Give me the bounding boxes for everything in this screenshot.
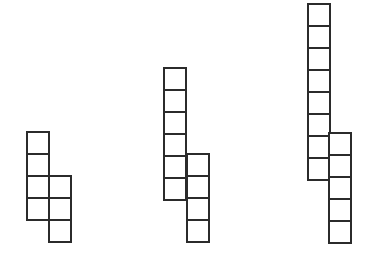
square-tile [186, 219, 210, 243]
square-tile [328, 198, 352, 222]
square-tile [307, 69, 331, 93]
square-tile [328, 154, 352, 178]
square-tile [26, 153, 50, 177]
square-tile [48, 197, 72, 221]
square-tile [48, 175, 72, 199]
square-tile [163, 89, 187, 113]
square-tile [163, 177, 187, 201]
square-tile [328, 132, 352, 156]
square-tile [26, 131, 50, 155]
square-tile [307, 25, 331, 49]
square-tile [186, 153, 210, 177]
square-tile [186, 175, 210, 199]
square-tile [26, 197, 50, 221]
square-tile [163, 155, 187, 179]
square-tile [163, 133, 187, 157]
square-tile [307, 3, 331, 27]
square-tile [328, 220, 352, 244]
square-tile [307, 91, 331, 115]
square-tile [328, 176, 352, 200]
square-tile [307, 47, 331, 71]
square-tile [186, 197, 210, 221]
square-tile [163, 111, 187, 135]
square-tile [26, 175, 50, 199]
square-tile [163, 67, 187, 91]
square-tile [48, 219, 72, 243]
